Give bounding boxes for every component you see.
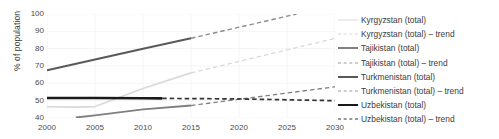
- line-chart: % of population 100908070605040 20002005…: [0, 0, 499, 139]
- legend-line-swatch: [338, 43, 358, 53]
- x-tick-label: 2010: [123, 123, 163, 133]
- y-tick-label: 60: [22, 79, 44, 87]
- legend-line-swatch: [338, 100, 358, 110]
- legend-item[interactable]: Tajikistan (total) – trend: [338, 56, 499, 70]
- y-axis-tick-labels: 100908070605040: [20, 0, 44, 139]
- x-tick-label: 2025: [267, 123, 307, 133]
- legend-item[interactable]: Kyrgyzstan (total) – trend: [338, 27, 499, 41]
- y-tick-label: 70: [22, 62, 44, 70]
- legend-item-label: Kyrgyzstan (total) – trend: [361, 29, 455, 39]
- legend-item-label: Uzbekistan (total): [361, 100, 426, 110]
- x-tick-label: 2020: [219, 123, 259, 133]
- legend-line-swatch: [338, 72, 358, 82]
- x-tick-label: 2005: [75, 123, 115, 133]
- legend-item[interactable]: Uzbekistan (total) – trend: [338, 112, 499, 126]
- legend-item-label: Uzbekistan (total) – trend: [361, 114, 455, 124]
- series-line: [47, 73, 191, 107]
- legend-item-label: Kyrgyzstan (total): [361, 15, 426, 25]
- x-tick-label: 2000: [27, 123, 67, 133]
- y-tick-label: 50: [22, 97, 44, 105]
- legend-item-label: Tajikistan (total): [361, 43, 419, 53]
- series-line: [191, 38, 335, 73]
- series-line: [47, 38, 191, 70]
- x-tick-label: 2015: [171, 123, 211, 133]
- legend-item-label: Turkmenistan (total): [361, 72, 435, 82]
- y-tick-label: 90: [22, 27, 44, 35]
- legend-line-swatch: [338, 86, 358, 96]
- plot-area: [47, 14, 335, 118]
- legend-item[interactable]: Kyrgyzstan (total): [338, 13, 499, 27]
- legend-line-swatch: [338, 114, 358, 124]
- series-canvas: [47, 14, 335, 118]
- y-tick-label: 40: [22, 114, 44, 122]
- legend-item-label: Tajikistan (total) – trend: [361, 58, 448, 68]
- legend-item[interactable]: Uzbekistan (total): [338, 98, 499, 112]
- legend-line-swatch: [338, 58, 358, 68]
- legend-item-label: Turkmenistan (total) – trend: [361, 86, 464, 96]
- y-tick-label: 100: [22, 10, 44, 18]
- series-line: [191, 14, 297, 38]
- y-tick-label: 80: [22, 45, 44, 53]
- legend-item[interactable]: Turkmenistan (total): [338, 70, 499, 84]
- x-axis-tick-labels: 2000200520102015202020252030: [47, 123, 335, 137]
- legend: Kyrgyzstan (total)Kyrgyzstan (total) – t…: [338, 13, 499, 131]
- legend-line-swatch: [338, 29, 358, 39]
- legend-line-swatch: [338, 15, 358, 25]
- legend-item[interactable]: Tajikistan (total): [338, 41, 499, 55]
- series-line: [191, 87, 335, 106]
- legend-item[interactable]: Turkmenistan (total) – trend: [338, 84, 499, 98]
